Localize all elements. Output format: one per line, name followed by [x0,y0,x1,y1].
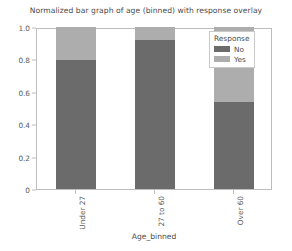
y-axis: 00.20.40.60.81.0 [0,28,36,190]
x-axis-tick-mark [75,190,76,194]
x-axis-tick-mark [233,190,234,194]
legend-swatch-yes [214,56,230,62]
bar-segment-no [214,102,254,189]
y-axis-tick-label: 0.2 [18,153,30,162]
bar [135,27,175,189]
legend-item: Yes [214,54,250,64]
y-axis-tick-label: 0 [25,186,30,195]
legend-entries: NoYes [214,44,250,64]
legend-title: Response [214,34,250,43]
y-axis-tick-label: 0.8 [18,56,30,65]
chart-figure: Normalized bar graph of age (binned) wit… [0,0,292,251]
y-axis-tick-label: 0.4 [18,121,30,130]
x-axis-tick-mark [154,190,155,194]
x-axis-tick-label: Under 27 [78,196,87,230]
legend-label: Yes [234,55,246,64]
chart-title: Normalized bar graph of age (binned) wit… [0,6,292,15]
bar-segment-yes [135,27,175,40]
legend-item: No [214,44,250,54]
x-axis-tick-label: 27 to 60 [157,196,166,227]
x-axis-title: Age_binned [36,232,272,241]
x-axis-tick-label: Over 60 [236,196,245,225]
y-axis-tick-label: 1.0 [18,24,30,33]
bar-segment-yes [56,27,96,60]
bar-segment-no [135,40,175,189]
legend-label: No [234,45,244,54]
legend-swatch-no [214,46,230,52]
bar-segment-no [56,60,96,189]
legend: Response NoYes [209,31,255,68]
y-axis-tick-label: 0.6 [18,88,30,97]
bar [56,27,96,189]
